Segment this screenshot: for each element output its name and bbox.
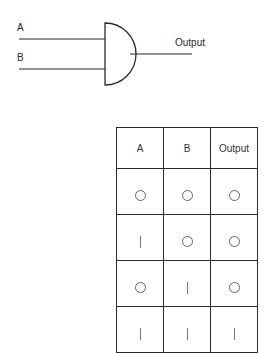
zero-cell: 0 <box>182 236 193 247</box>
one-cell: 1 <box>187 328 188 340</box>
input-a-label: A <box>17 23 24 33</box>
output-label: Output <box>175 38 205 48</box>
table-header-row: A B Output <box>117 128 258 169</box>
one-cell: 1 <box>187 282 188 294</box>
one-cell: 1 <box>234 328 235 340</box>
table-row: 0 0 0 <box>117 169 258 215</box>
input-b-label: B <box>17 53 24 63</box>
truth-table: A B Output 0 0 0 1 0 0 0 1 0 1 1 1 <box>116 127 258 353</box>
header-a: A <box>117 128 164 169</box>
table-row: 1 1 1 <box>117 307 258 353</box>
zero-cell: 0 <box>135 190 146 201</box>
one-cell: 1 <box>140 236 141 248</box>
one-cell: 1 <box>140 328 141 340</box>
zero-cell: 0 <box>229 190 240 201</box>
header-output: Output <box>211 128 258 169</box>
table-row: 1 0 0 <box>117 215 258 261</box>
table-row: 0 1 0 <box>117 261 258 307</box>
zero-cell: 0 <box>135 282 146 293</box>
header-b: B <box>164 128 211 169</box>
and-gate-diagram <box>0 0 272 110</box>
zero-cell: 0 <box>182 190 193 201</box>
zero-cell: 0 <box>229 236 240 247</box>
zero-cell: 0 <box>229 282 240 293</box>
